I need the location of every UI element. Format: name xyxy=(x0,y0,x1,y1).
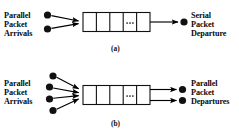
panel-a-caption: (a) xyxy=(111,44,120,53)
panel-b-input-label-line-3: Arrivals xyxy=(4,97,32,106)
panel-b-graphics xyxy=(46,72,186,114)
panel-b-input-node xyxy=(46,83,53,90)
panel-a-input-label-line-1: Parallel xyxy=(4,11,32,20)
panel-b-output-label-line-3: Departures xyxy=(191,97,229,106)
panel-a-output-label: Serial Packet Departure xyxy=(191,11,226,38)
panel-a-input-label-line-3: Arrivals xyxy=(4,29,32,38)
panel-b-input-arrow xyxy=(57,99,79,109)
panel-a-input-node xyxy=(44,11,51,18)
panel-b-output-node xyxy=(179,97,186,104)
panel-a-output-node xyxy=(180,18,187,25)
panel-b-input-node xyxy=(46,95,53,102)
panel-b-input-arrow xyxy=(53,88,78,93)
panel-a-output-label-line-2: Packet xyxy=(191,20,226,29)
panel-b-output-label: Parallel Packet Departures xyxy=(191,79,229,106)
panel-a-queue-ellipsis xyxy=(126,22,133,24)
panel-a-output-label-line-3: Departure xyxy=(191,29,226,38)
panel-a-input-arrow xyxy=(51,16,78,21)
panel-b-input-label-line-1: Parallel xyxy=(4,79,32,88)
panel-b-caption: (b) xyxy=(111,119,120,128)
panel-b-queue-box xyxy=(83,86,150,105)
panel-b-input-label: Parallel Packet Arrivals xyxy=(4,79,32,106)
panel-a-input-node xyxy=(44,25,51,32)
panel-b-queue-ellipsis xyxy=(126,95,133,97)
panel-b-output-label-line-1: Parallel xyxy=(191,79,229,88)
panel-b-input-arrow xyxy=(53,96,78,99)
panel-b-output-node xyxy=(179,86,186,93)
panel-a-input-label: Parallel Packet Arrivals xyxy=(4,11,32,38)
panel-a-output-label-line-1: Serial xyxy=(191,11,226,20)
panel-b-input-label-line-2: Packet xyxy=(4,88,32,97)
panel-b-output-label-line-2: Packet xyxy=(191,88,229,97)
panel-b-input-arrow xyxy=(57,77,79,89)
panel-a-input-label-line-2: Packet xyxy=(4,20,32,29)
panel-b-input-node xyxy=(49,72,56,79)
panel-a-input-arrow xyxy=(51,24,78,29)
panel-a-queue-box xyxy=(83,13,150,32)
panel-b-input-node xyxy=(49,107,56,114)
figure-container: Parallel Packet Arrivals Serial Packet D… xyxy=(0,0,239,137)
panel-a-graphics xyxy=(44,11,188,32)
